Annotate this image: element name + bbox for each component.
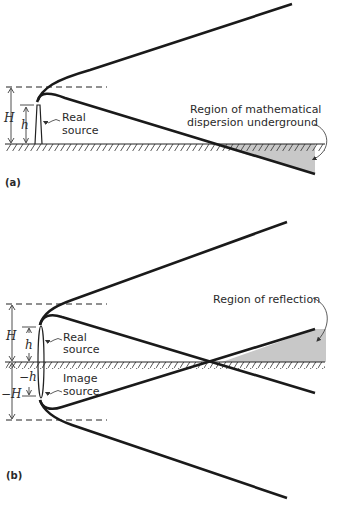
image-source-label: Image [63,372,98,385]
reflection-region [222,329,326,362]
real-source-label-b-2: source [63,343,100,356]
stack-icon [35,105,42,144]
real-source-label-2: source [62,124,99,137]
ground-hatch [5,144,325,151]
neg-H-label: −H [1,387,22,401]
H-label-b: H [5,329,17,343]
H-label: H [3,111,15,125]
real-source-pointer [47,339,62,342]
region-underground-label: Region of mathematical [190,103,321,116]
h-label-b: h [25,338,33,352]
panel-b: H −H h −h Real source Image source [1,222,327,498]
image-plume-lower-edge [40,400,287,498]
source-pointer [45,120,60,123]
real-plume-upper-edge [40,222,287,325]
panel-a-label: (a) [5,177,21,188]
panel-b-label: (b) [6,470,22,481]
neg-h-label: −h [19,370,37,384]
h-label: h [21,118,29,132]
image-source-label-2: source [63,385,100,398]
region-underground-pointer [314,124,327,159]
plume-upper-edge [37,4,292,102]
dispersion-diagram: H h Real source Region of mathematical d… [0,0,341,513]
real-source-label: Real [62,111,86,124]
region-reflection-label: Region of reflection [213,293,320,306]
ground-hatch-b [5,362,325,369]
region-underground-label-2: dispersion underground [187,116,318,129]
image-source-pointer [47,391,62,394]
panel-a: H h Real source Region of mathematical d… [3,4,327,188]
